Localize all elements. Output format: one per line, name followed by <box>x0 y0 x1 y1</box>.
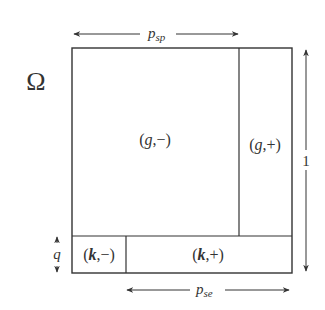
region-g-minus: (g,−) <box>139 131 171 149</box>
region-g-plus: (g,+) <box>249 136 281 154</box>
svg-text:pse: pse <box>195 281 213 299</box>
region-k-minus: (k,−) <box>83 246 115 264</box>
omega-symbol: Ω <box>26 67 45 96</box>
right-dimension-arrow: 1 <box>302 50 310 271</box>
partition-diagram: Ω psp (g,−) (g,+) (k,−) (k,+) 1 q pse <box>0 0 325 310</box>
region-k-plus: (k,+) <box>192 246 224 264</box>
right-dimension-label: 1 <box>302 153 310 169</box>
svg-text:psp: psp <box>147 25 166 43</box>
domain-box <box>72 48 292 273</box>
top-dimension-arrow: psp <box>74 25 238 43</box>
bottom-dimension-arrow: pse <box>127 281 289 299</box>
top-dimension-sub: sp <box>156 31 166 43</box>
left-dimension-label: q <box>53 246 61 262</box>
bottom-dimension-sub: se <box>204 287 213 299</box>
left-dimension-arrow: q <box>53 237 61 272</box>
